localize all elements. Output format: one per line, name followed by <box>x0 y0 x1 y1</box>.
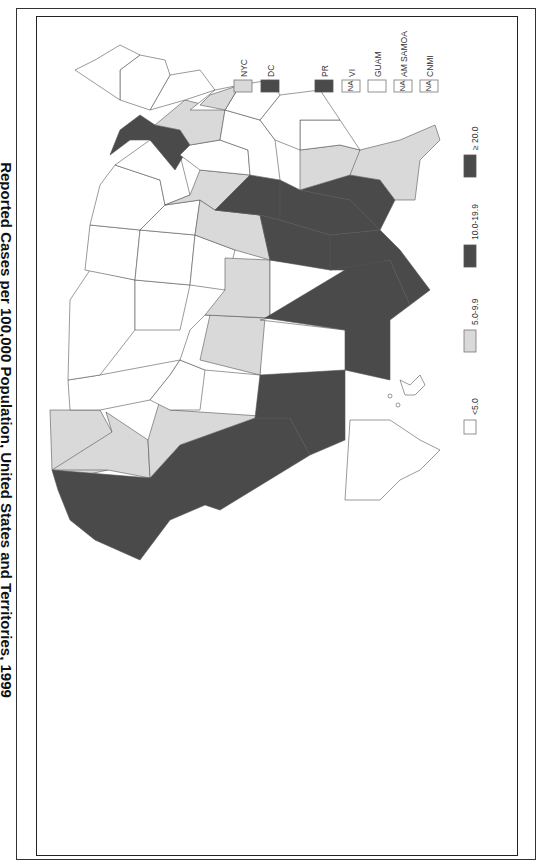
legend-swatch-lt5 <box>464 420 476 434</box>
state-north-dakota <box>85 225 140 280</box>
hawaii-island-a <box>388 394 392 398</box>
state-hawaii <box>400 375 425 395</box>
legend-label-pr: PR <box>320 65 330 77</box>
state-south-carolina <box>300 120 360 150</box>
legend-swatch-guam <box>368 80 386 92</box>
legend-swatch-gte20 <box>464 155 476 177</box>
state-wyoming <box>135 280 190 330</box>
legend-swatch-pr <box>315 80 333 92</box>
hawaii-island-b <box>396 403 400 407</box>
legend-swatch-nyc <box>234 80 252 92</box>
legend-swatch-dc <box>261 80 279 92</box>
legend-label-gte20: ≥ 20.0 <box>470 126 480 150</box>
legend-label-cnmi: CNMI <box>425 55 435 77</box>
na-marker-cnmi: NA <box>424 77 434 95</box>
legend-label-5to9: 5.0-9.9 <box>470 299 480 325</box>
rate-legend <box>464 155 476 434</box>
state-south-dakota <box>135 230 195 285</box>
legend-swatch-10to19 <box>464 245 476 267</box>
legend-label-lt5: <5.0 <box>470 398 480 415</box>
state-montana <box>68 270 135 380</box>
legend-label-dc: DC <box>266 65 276 77</box>
legend-label-nyc: NYC <box>239 59 249 77</box>
state-alaska <box>345 420 440 500</box>
na-marker-amsamoa: NA <box>398 77 408 95</box>
legend-label-guam: GUAM <box>373 52 383 78</box>
us-choropleth-map <box>0 0 549 868</box>
na-marker-vi: NA <box>346 77 356 95</box>
legend-label-10to19: 10.0-19.9 <box>470 204 480 240</box>
legend-label-vi: VI <box>347 69 357 77</box>
legend-label-amsamoa: AM SAMOA <box>399 31 409 77</box>
legend-swatch-5to9 <box>464 330 476 352</box>
